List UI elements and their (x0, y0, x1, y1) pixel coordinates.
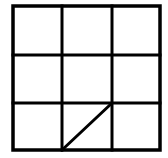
figure-background (0, 0, 168, 158)
grid-figure-svg (0, 0, 168, 158)
figure-canvas (0, 0, 168, 158)
